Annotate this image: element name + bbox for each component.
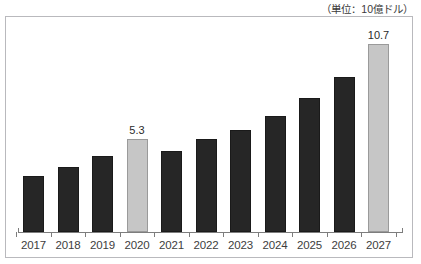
x-axis-label-2017: 2017	[15, 239, 53, 251]
bar-2024[interactable]	[265, 116, 286, 232]
x-axis-label-2022: 2022	[187, 239, 225, 251]
bar-2027[interactable]: 10.7	[368, 44, 389, 232]
bar-2019[interactable]	[92, 156, 113, 232]
x-axis-label-2018: 2018	[49, 239, 87, 251]
bar-rect-2025	[299, 98, 320, 232]
bar-rect-2022	[196, 139, 217, 232]
x-axis-tick-8	[292, 232, 293, 237]
bar-value-label-2027: 10.7	[359, 29, 398, 41]
bar-rect-2023	[230, 130, 251, 232]
x-axis-cap-right	[402, 228, 403, 233]
bar-2022[interactable]	[196, 139, 217, 232]
x-axis-cap-left	[18, 228, 19, 233]
plot-area: 5.310.7	[6, 17, 414, 259]
bar-rect-2019	[92, 156, 113, 232]
x-axis-tick-9	[327, 232, 328, 237]
x-axis-tick-5	[189, 232, 190, 237]
bar-rect-2027	[368, 44, 389, 232]
x-axis-label-2024: 2024	[256, 239, 294, 251]
x-axis-label-2021: 2021	[153, 239, 191, 251]
bar-2020[interactable]: 5.3	[127, 139, 148, 232]
bar-value-label-2020: 5.3	[118, 124, 157, 136]
bar-2021[interactable]	[161, 151, 182, 232]
bar-rect-2021	[161, 151, 182, 232]
x-axis-line	[18, 232, 403, 233]
bar-2023[interactable]	[230, 130, 251, 232]
unit-annotation: （単位：10億ドル）	[321, 1, 413, 16]
x-axis-tick-4	[154, 232, 155, 237]
bar-2017[interactable]	[23, 176, 44, 232]
x-axis-label-2023: 2023	[222, 239, 260, 251]
x-axis-label-2019: 2019	[84, 239, 122, 251]
x-axis-label-2027: 2027	[360, 239, 398, 251]
x-axis-label-2026: 2026	[325, 239, 363, 251]
x-axis-tick-6	[223, 232, 224, 237]
bar-rect-2024	[265, 116, 286, 232]
x-axis-tick-10	[361, 232, 362, 237]
x-axis-tick-0	[16, 232, 17, 237]
x-axis-label-2025: 2025	[291, 239, 329, 251]
x-axis-label-2020: 2020	[118, 239, 156, 251]
x-axis-tick-2	[85, 232, 86, 237]
x-axis-tick-1	[51, 232, 52, 237]
bar-2026[interactable]	[334, 77, 355, 232]
bar-rect-2018	[58, 167, 79, 232]
bar-rect-2020	[127, 139, 148, 232]
bar-2018[interactable]	[58, 167, 79, 232]
bar-rect-2026	[334, 77, 355, 232]
x-axis-tick-end	[396, 232, 397, 237]
bar-rect-2017	[23, 176, 44, 232]
bar-2025[interactable]	[299, 98, 320, 232]
x-axis-tick-3	[120, 232, 121, 237]
x-axis-tick-7	[258, 232, 259, 237]
chart-frame: 5.310.7 20172018201920202021202220232024…	[5, 16, 413, 258]
